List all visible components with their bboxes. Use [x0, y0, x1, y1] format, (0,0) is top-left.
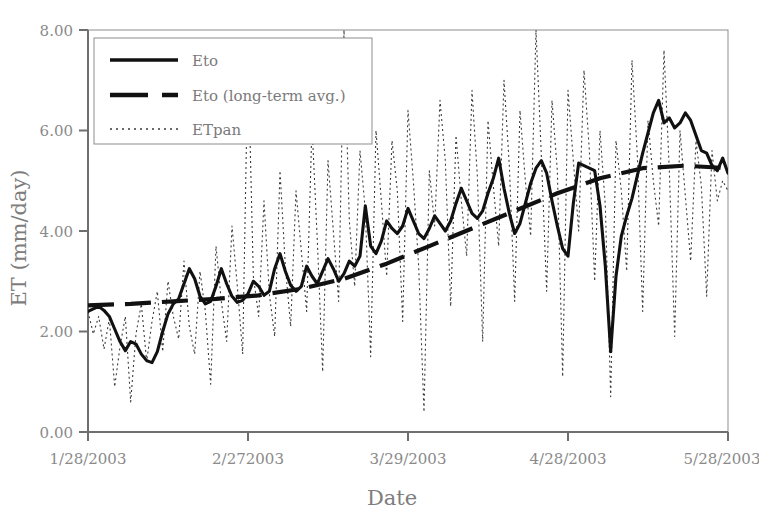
y-tick-label-4: 4.00: [40, 223, 73, 241]
x-tick-label-2: 3/29/2003: [370, 450, 447, 468]
x-tick-label-3: 4/28/2003: [530, 450, 607, 468]
legend-label-eto: Eto: [192, 52, 218, 70]
x-tick-label-1: 2/272003: [212, 450, 284, 468]
x-tick-label-0: 1/28/2003: [50, 450, 127, 468]
legend-label-etpan: ETpan: [192, 121, 241, 139]
y-tick-label-6: 6.00: [40, 122, 73, 140]
chart-canvas: 8.00 6.00 4.00 2.00 0.00 1/28/2003 2/272…: [0, 0, 759, 516]
y-tick-label-0: 0.00: [40, 424, 73, 442]
x-axis-ticks: [88, 432, 728, 441]
chart-legend: Eto Eto (long-term avg.) ETpan: [94, 38, 372, 144]
y-axis-ticks: [79, 30, 88, 432]
y-axis-title: ET (mm/day): [7, 169, 31, 306]
x-axis-title: Date: [367, 486, 417, 510]
y-tick-label-2: 2.00: [40, 323, 73, 341]
x-tick-label-4: 5/28/2003: [684, 450, 759, 468]
y-tick-label-8: 8.00: [40, 22, 73, 40]
chart-figure: 8.00 6.00 4.00 2.00 0.00 1/28/2003 2/272…: [0, 0, 759, 516]
legend-label-eto-long-term-avg: Eto (long-term avg.): [192, 87, 346, 105]
